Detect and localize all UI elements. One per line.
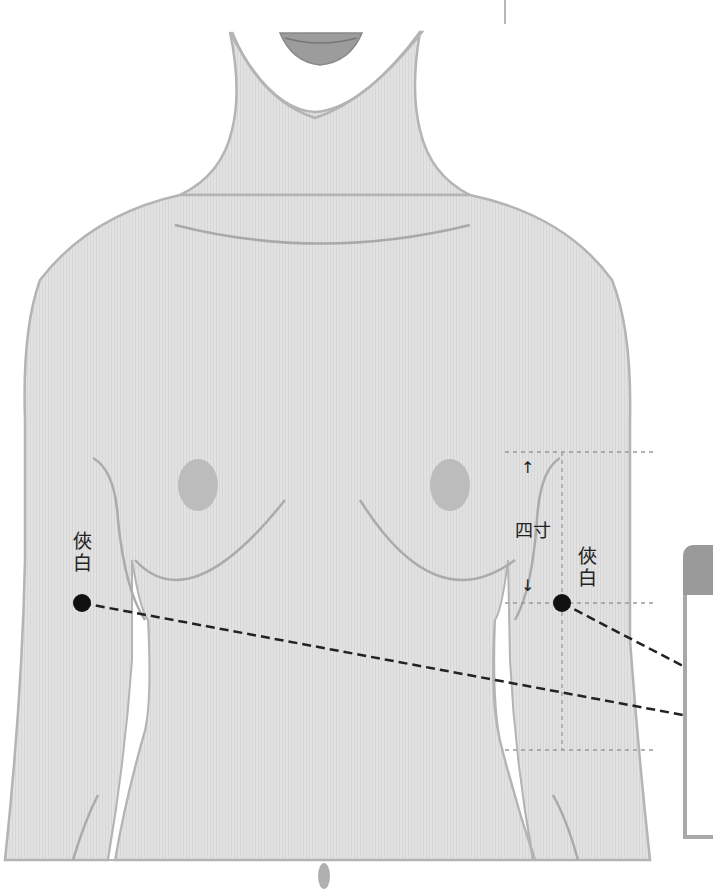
up-arrow-icon: ↑ xyxy=(521,458,534,477)
left-xiabai-point xyxy=(73,594,91,612)
left-nipple xyxy=(178,459,218,511)
measurement-label: 四寸 xyxy=(515,520,551,542)
right-xiabai-point xyxy=(553,594,571,612)
right-label-char1: 俠 xyxy=(576,545,598,567)
left-label-char1: 俠 xyxy=(71,530,93,552)
torso-shape xyxy=(5,195,650,860)
right-nipple xyxy=(430,459,470,511)
right-label-char2: 白 xyxy=(576,567,598,589)
panel-body xyxy=(683,595,713,839)
down-arrow-icon: ↓ xyxy=(521,576,534,595)
navel xyxy=(318,863,330,889)
left-label-char2: 白 xyxy=(71,552,93,574)
lips xyxy=(280,33,362,65)
side-info-panel xyxy=(683,545,713,835)
panel-header xyxy=(683,545,713,595)
left-xiabai-label: 俠 白 xyxy=(71,530,93,574)
right-xiabai-label: 俠 白 xyxy=(576,545,598,589)
